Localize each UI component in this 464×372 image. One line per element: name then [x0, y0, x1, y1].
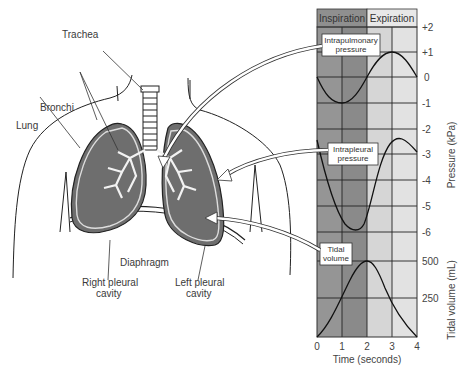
label-left-pleural-2: cavity	[186, 288, 212, 299]
svg-text:Tidal: Tidal	[327, 245, 344, 254]
svg-text:+1: +1	[422, 47, 434, 58]
svg-text:Intrapleural: Intrapleural	[333, 145, 373, 154]
svg-text:-3: -3	[422, 149, 431, 160]
time-ticks: 0 1 2 3 4	[314, 341, 420, 352]
label-right-pleural-2: cavity	[96, 288, 122, 299]
callout-intrapulmonary: Intrapulmonary pressure	[322, 34, 380, 56]
svg-text:500: 500	[422, 256, 439, 267]
pressure-ticks: +2 +1 0 -1 -2 -3 -4 -5 -6	[422, 22, 434, 238]
volume-axis-label: Tidal volume (mL)	[446, 260, 457, 340]
time-axis-label: Time (seconds)	[333, 354, 402, 365]
volume-ticks: 500 250	[422, 256, 439, 304]
left-lung	[157, 123, 224, 245]
svg-text:+2: +2	[422, 22, 434, 33]
label-right-pleural: Right pleural	[82, 277, 138, 288]
svg-text:volume: volume	[323, 254, 349, 263]
label-left-pleural: Left pleural	[175, 277, 224, 288]
svg-text:pressure: pressure	[337, 154, 369, 163]
svg-text:Intrapulmonary: Intrapulmonary	[324, 36, 377, 45]
svg-text:-4: -4	[422, 175, 431, 186]
header-expiration: Expiration	[370, 13, 414, 24]
svg-text:4: 4	[414, 341, 420, 352]
svg-text:pressure: pressure	[335, 45, 367, 54]
right-lung	[71, 123, 146, 232]
svg-text:0: 0	[424, 72, 430, 83]
label-diaphragm: Diaphragm	[120, 257, 169, 268]
svg-text:1: 1	[339, 341, 345, 352]
label-bronchi: Bronchi	[40, 102, 74, 113]
svg-text:0: 0	[314, 341, 320, 352]
callout-intrapleural: Intrapleural pressure	[328, 143, 378, 165]
respiration-figure: Trachea Bronchi Lung Diaphragm Right ple…	[0, 0, 464, 372]
label-trachea: Trachea	[62, 29, 99, 40]
label-lung: Lung	[16, 120, 38, 131]
pressure-axis-label: Pressure (kPa)	[446, 122, 457, 189]
svg-text:-1: -1	[422, 98, 431, 109]
trachea	[141, 86, 159, 150]
callout-tidal: Tidal volume	[320, 243, 352, 265]
svg-text:-6: -6	[422, 227, 431, 238]
svg-text:-5: -5	[422, 201, 431, 212]
svg-text:250: 250	[422, 293, 439, 304]
header-inspiration: Inspiration	[319, 13, 365, 24]
svg-text:3: 3	[389, 341, 395, 352]
chart: Inspiration Expiration Intrapulmonary	[314, 9, 457, 365]
svg-text:2: 2	[364, 341, 370, 352]
svg-text:-2: -2	[422, 124, 431, 135]
